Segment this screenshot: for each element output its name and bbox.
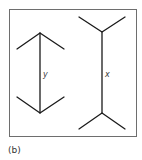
x-bottom-fins (79, 113, 125, 129)
left-figure-y (17, 33, 64, 113)
muller-lyer-figure: y x (b) (0, 0, 142, 160)
diagram-canvas (0, 0, 142, 160)
figure-frame (10, 10, 137, 137)
label-x: x (105, 71, 110, 79)
figure-caption: (b) (8, 146, 21, 155)
right-figure-x (79, 17, 125, 129)
x-top-fins (79, 17, 125, 32)
label-y: y (43, 71, 48, 79)
